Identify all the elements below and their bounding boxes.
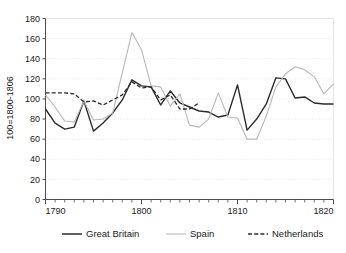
chart-container: 020406080100120140160180 179018001810182… xyxy=(0,0,346,253)
line-chart: 020406080100120140160180 179018001810182… xyxy=(0,0,346,253)
y-tick-label: 20 xyxy=(30,175,40,185)
legend-label: Great Britain xyxy=(86,228,139,239)
y-tick-label: 140 xyxy=(25,54,40,64)
y-tick-label: 120 xyxy=(25,74,40,84)
x-tick-label: 1790 xyxy=(46,206,66,216)
x-tick-label: 1810 xyxy=(227,206,247,216)
y-tick-label: 180 xyxy=(25,14,40,24)
y-tick-label: 100 xyxy=(25,94,40,104)
x-tick-label: 1820 xyxy=(313,206,333,216)
x-tick-label: 1800 xyxy=(131,206,151,216)
y-axis-title-group: 100=1800-1806 xyxy=(5,76,15,139)
y-tick-label: 40 xyxy=(30,154,40,164)
y-axis-title: 100=1800-1806 xyxy=(5,76,15,139)
y-tick-label: 80 xyxy=(30,114,40,124)
y-tick-label: 160 xyxy=(25,34,40,44)
chart-legend: Great BritainSpainNetherlands xyxy=(62,228,323,239)
y-tick-label: 0 xyxy=(35,195,40,205)
legend-label: Spain xyxy=(190,228,214,239)
y-tick-label: 60 xyxy=(30,134,40,144)
legend-label: Netherlands xyxy=(272,228,323,239)
